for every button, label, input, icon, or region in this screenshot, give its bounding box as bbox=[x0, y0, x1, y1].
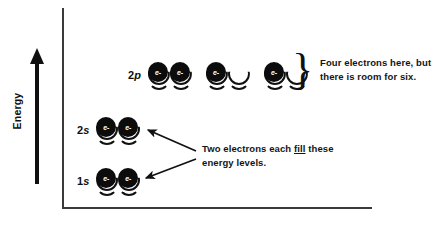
level-label-1s: 1s bbox=[77, 168, 89, 194]
orbital-slot-empty bbox=[228, 62, 250, 88]
level-label-2p-orbital: p bbox=[134, 69, 141, 81]
diagram-canvas: Energy 2p e- e- e- bbox=[0, 0, 441, 230]
orbital-slot-filled: e- bbox=[118, 117, 140, 143]
orbital-groups-2s: e- e- bbox=[96, 117, 140, 143]
annotation-s-line1: Two electrons each fill these bbox=[202, 142, 334, 156]
orbital-groups-2p: e- e- e- e- bbox=[148, 62, 308, 88]
curly-brace-icon: } bbox=[292, 48, 313, 92]
energy-level-1s: 1s e- e- bbox=[77, 168, 140, 194]
annotation-s-line1-after: these bbox=[306, 143, 334, 154]
annotation-s-line2: energy levels. bbox=[202, 156, 334, 170]
orbital-slot-filled: e- bbox=[148, 62, 170, 88]
arrow-shaft bbox=[35, 61, 39, 184]
orbital-slot-filled: e- bbox=[264, 62, 286, 88]
y-axis-line bbox=[62, 8, 64, 209]
level-label-2s: 2s bbox=[77, 117, 89, 143]
annotation-s-line1-emphasis: fill bbox=[294, 143, 305, 154]
callout-arrow-to-1s bbox=[146, 159, 196, 178]
electron-icon: e- bbox=[206, 62, 226, 82]
orbital-slot-filled: e- bbox=[170, 62, 192, 88]
y-axis-label: Energy bbox=[11, 81, 23, 141]
energy-level-2s: 2s e- e- bbox=[77, 117, 140, 143]
orbital-slot-filled: e- bbox=[96, 168, 118, 194]
electron-icon: e- bbox=[148, 62, 168, 82]
orbital-slot-filled: e- bbox=[206, 62, 228, 88]
orbital-cup-icon bbox=[228, 68, 250, 90]
energy-level-2p: 2p e- e- e- bbox=[128, 62, 308, 88]
orbital-group: e- bbox=[206, 62, 250, 88]
orbital-groups-1s: e- e- bbox=[96, 168, 140, 194]
annotation-2p: Four electrons here, but there is room f… bbox=[320, 56, 431, 84]
x-axis-line bbox=[62, 207, 372, 209]
level-label-2p: 2p bbox=[128, 62, 141, 88]
electron-icon: e- bbox=[170, 62, 190, 82]
orbital-group: e- e- bbox=[96, 117, 140, 143]
level-label-2s-orbital: s bbox=[83, 124, 89, 136]
annotation-2p-line1: Four electrons here, but bbox=[320, 56, 431, 70]
orbital-slot-filled: e- bbox=[96, 117, 118, 143]
annotation-2p-line2: there is room for six. bbox=[320, 70, 431, 84]
level-label-1s-orbital: s bbox=[83, 175, 89, 187]
orbital-group: e- e- bbox=[148, 62, 192, 88]
callout-arrow-to-2s bbox=[148, 130, 196, 151]
orbital-group: e- e- bbox=[96, 168, 140, 194]
annotation-s-levels: Two electrons each fill these energy lev… bbox=[202, 142, 334, 170]
orbital-slot-filled: e- bbox=[118, 168, 140, 194]
callout-arrows-group bbox=[0, 0, 441, 230]
annotation-s-line1-before: Two electrons each bbox=[202, 143, 294, 154]
energy-axis-arrow bbox=[30, 48, 46, 184]
electron-icon: e- bbox=[264, 62, 284, 82]
